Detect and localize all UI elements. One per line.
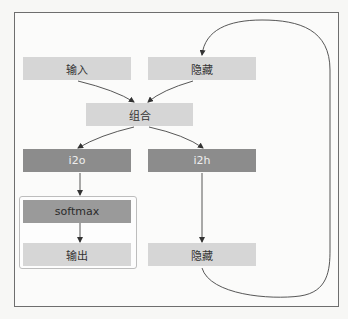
node-i2h: i2h — [148, 149, 256, 172]
node-input: 输入 — [23, 57, 131, 80]
node-output-label: 输出 — [66, 247, 88, 263]
node-output: 输出 — [23, 243, 131, 266]
node-hidden-in-label: 隐藏 — [191, 61, 213, 77]
node-input-label: 输入 — [66, 61, 88, 77]
node-i2o-label: i2o — [69, 154, 86, 167]
node-hidden-out: 隐藏 — [148, 243, 256, 266]
node-combined: 组合 — [86, 103, 193, 126]
node-i2o: i2o — [23, 149, 131, 172]
node-softmax-label: softmax — [55, 205, 99, 218]
node-combined-label: 组合 — [129, 107, 151, 123]
node-i2h-label: i2h — [193, 154, 210, 167]
node-softmax: softmax — [23, 200, 131, 223]
node-hidden-in: 隐藏 — [148, 57, 256, 80]
node-hidden-out-label: 隐藏 — [191, 247, 213, 263]
